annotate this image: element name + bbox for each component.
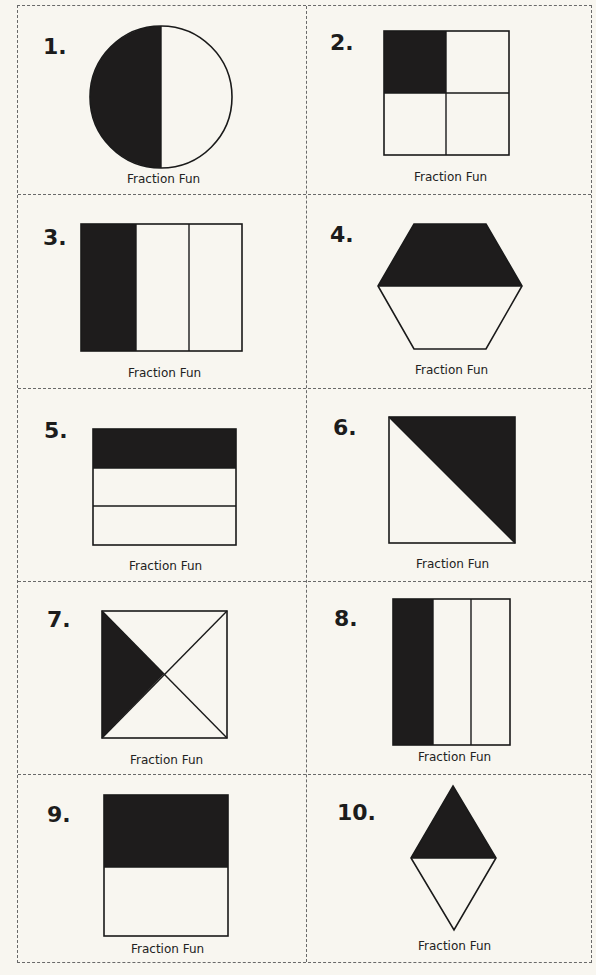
half-shaded-square-figure xyxy=(103,794,230,938)
half-shaded-hexagon-figure xyxy=(377,223,525,351)
diagonal-half-square-figure xyxy=(388,416,517,545)
half-shaded-rhombus-figure xyxy=(410,785,498,933)
column-divider xyxy=(306,6,307,962)
figure-caption: Fraction Fun xyxy=(414,170,487,184)
figure-caption: Fraction Fun xyxy=(131,942,204,956)
x-divided-square-figure xyxy=(101,610,229,740)
figure-caption: Fraction Fun xyxy=(418,750,491,764)
figure-caption: Fraction Fun xyxy=(127,172,200,186)
half-shaded-circle-figure xyxy=(88,25,234,171)
quartered-square-figure xyxy=(383,30,511,157)
problem-number: 5. xyxy=(44,418,68,443)
problem-number: 6. xyxy=(333,415,357,440)
figure-caption: Fraction Fun xyxy=(129,559,202,573)
problem-number: 8. xyxy=(334,606,358,631)
row-divider xyxy=(18,774,591,775)
problem-number: 9. xyxy=(47,802,71,827)
problem-number: 1. xyxy=(43,34,67,59)
figure-caption: Fraction Fun xyxy=(415,363,488,377)
thirds-horizontal-rectangle-figure xyxy=(92,428,238,546)
row-divider xyxy=(18,194,591,195)
figure-caption: Fraction Fun xyxy=(416,557,489,571)
row-divider xyxy=(18,388,591,389)
problem-number: 7. xyxy=(47,607,71,632)
thirds-rectangle-figure xyxy=(80,223,244,353)
figure-caption: Fraction Fun xyxy=(418,939,491,953)
problem-number: 4. xyxy=(330,222,354,247)
problem-number: 10. xyxy=(337,800,376,825)
row-divider xyxy=(18,581,591,582)
problem-number: 2. xyxy=(330,30,354,55)
thirds-tall-rectangle-figure xyxy=(392,598,512,746)
problem-number: 3. xyxy=(43,225,67,250)
figure-caption: Fraction Fun xyxy=(130,753,203,767)
figure-caption: Fraction Fun xyxy=(128,366,201,380)
